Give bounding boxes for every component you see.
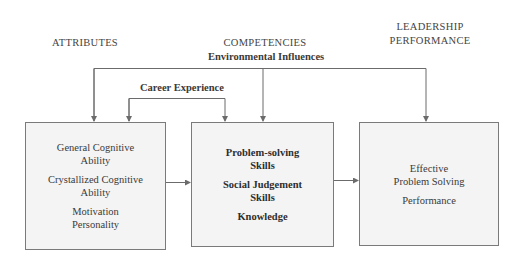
box-competencies: Problem-solving Skills Social Judgement …	[191, 122, 334, 247]
performance-item: Effective Problem Solving	[394, 162, 465, 188]
item-line: Performance	[402, 194, 456, 207]
attribute-item: General Cognitive Ability	[57, 141, 134, 167]
item-line: Ability	[57, 154, 134, 167]
competency-item: Social Judgement Skills	[223, 178, 302, 204]
item-line: Skills	[223, 191, 302, 204]
career-line	[129, 99, 225, 122]
item-line: General Cognitive	[57, 141, 134, 154]
item-line: Personality	[72, 218, 119, 231]
item-line: Motivation	[72, 205, 119, 218]
item-line: Ability	[48, 186, 143, 199]
competency-item: Problem-solving Skills	[226, 146, 299, 172]
item-line: Problem-solving	[226, 146, 299, 159]
item-line: Crystallized Cognitive	[48, 173, 143, 186]
label-environmental-influences: Environmental Influences	[206, 51, 326, 62]
attribute-item: Motivation Personality	[72, 205, 119, 231]
item-line: Effective	[394, 162, 465, 175]
item-line: Problem Solving	[394, 175, 465, 188]
box-performance: Effective Problem Solving Performance	[359, 122, 499, 246]
item-line: Social Judgement	[223, 178, 302, 191]
box-attributes: General Cognitive Ability Crystallized C…	[25, 122, 166, 250]
item-line: Knowledge	[237, 210, 287, 223]
label-career-experience: Career Experience	[138, 82, 226, 93]
env-line	[94, 69, 426, 122]
item-line: Skills	[226, 159, 299, 172]
competency-item: Knowledge	[237, 210, 287, 223]
attribute-item: Crystallized Cognitive Ability	[48, 173, 143, 199]
performance-item: Performance	[402, 194, 456, 207]
